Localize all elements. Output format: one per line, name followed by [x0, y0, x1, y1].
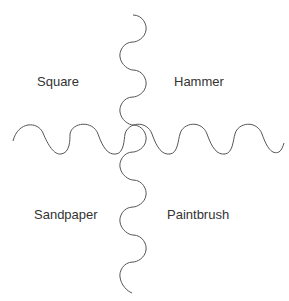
wavy-dividers — [0, 0, 289, 301]
vertical-wavy-divider — [120, 15, 146, 293]
label-hammer: Hammer — [174, 74, 224, 89]
horizontal-wavy-divider — [13, 124, 284, 154]
label-sandpaper: Sandpaper — [34, 207, 98, 222]
label-paintbrush: Paintbrush — [167, 207, 229, 222]
label-square: Square — [37, 74, 79, 89]
